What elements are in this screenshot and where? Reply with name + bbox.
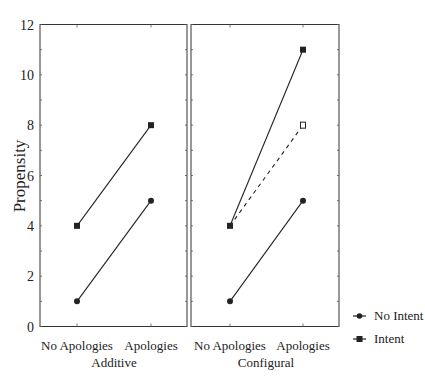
open-square-marker-icon [301,122,306,128]
x-tick-apologies-additive: Apologies [124,338,177,353]
legend: No Intent Intent [353,308,424,346]
x-tick-apologies-configural: Apologies [276,338,329,353]
circle-marker-icon [74,298,80,304]
square-marker-icon [148,122,154,128]
x-tick-no-apologies-configural: No Apologies [194,338,266,353]
y-tick-label: 0 [27,320,34,335]
circle-marker-icon [227,298,233,304]
panel-label-configural: Configural [238,355,295,370]
y-tick-label: 8 [27,118,34,133]
y-tick-label: 12 [20,18,34,33]
legend-item-no-intent: No Intent [353,308,424,323]
y-tick-label: 4 [27,219,34,234]
y-axis-label: Propensity [10,139,29,212]
series-no-intent [227,198,306,305]
svg-text:Intent: Intent [374,331,405,346]
square-marker-icon [74,223,80,229]
panel-label-additive: Additive [91,355,137,370]
series-intent-additive-reference [230,122,306,226]
y-tick-label: 2 [27,269,34,284]
circle-marker-icon [300,198,306,204]
series-intent [227,47,306,229]
y-axis: 024681012 [20,18,339,335]
legend-item-intent: Intent [353,331,405,346]
plot-series [74,47,306,305]
circle-marker-icon [148,198,154,204]
square-marker-icon [300,47,306,53]
x-tick-no-apologies-additive: No Apologies [41,338,113,353]
square-marker-icon [357,336,363,342]
panel-configural-frame [191,25,339,327]
square-marker-icon [227,223,233,229]
interaction-chart: 024681012 Propensity No Apologies Apolog… [0,0,425,381]
svg-text:No Intent: No Intent [374,308,424,323]
y-tick-label: 10 [20,68,34,83]
circle-marker-icon [357,313,363,319]
